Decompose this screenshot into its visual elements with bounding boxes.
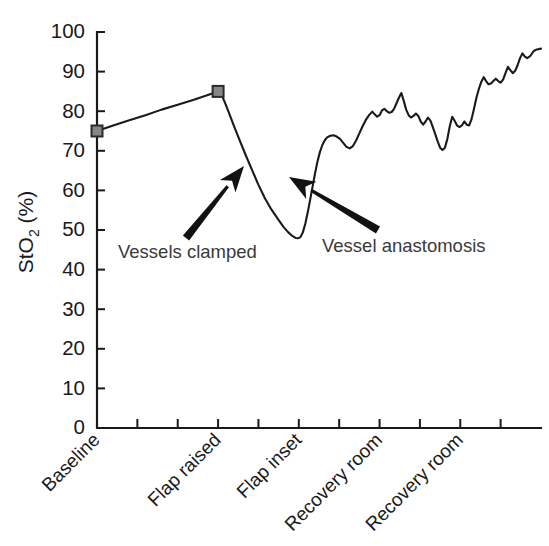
data-point-marker xyxy=(213,86,224,97)
annotation-arrow-shaft xyxy=(311,189,381,234)
annotation-vessels-clamped: Vessels clamped xyxy=(118,241,257,262)
y-tick-label: 10 xyxy=(62,376,85,399)
y-tick-label: 50 xyxy=(62,217,85,240)
y-tick-label: 30 xyxy=(62,297,85,320)
annotation-arrow-head xyxy=(220,166,244,193)
svg-text:StO2 (%): StO2 (%) xyxy=(14,191,42,273)
y-tick-label: 70 xyxy=(62,138,85,161)
x-category-label: Baseline xyxy=(37,429,103,495)
data-point-marker xyxy=(92,126,103,137)
sto2-data-curve xyxy=(97,49,541,239)
annotation-arrows xyxy=(183,166,380,241)
y-axis-title-base: StO xyxy=(14,237,37,273)
y-tick-label: 60 xyxy=(62,178,85,201)
x-axis-category-labels: BaselineFlap raisedFlap insetRecovery ro… xyxy=(37,428,467,534)
annotation-vessel-anastomosis: Vessel anastomosis xyxy=(322,235,486,256)
axis-lines xyxy=(97,32,541,428)
y-tick-label: 80 xyxy=(62,99,85,122)
annotation-labels: Vessels clamped Vessel anastomosis xyxy=(118,235,486,262)
y-axis-title-unit: (%) xyxy=(14,191,37,230)
x-category-label: Flap inset xyxy=(233,428,307,502)
y-tick-label: 100 xyxy=(51,19,85,42)
y-tick-label: 90 xyxy=(62,59,85,82)
y-axis-tick-marks xyxy=(97,32,105,428)
y-tick-label: 40 xyxy=(62,257,85,280)
chart-figure: StO2 (%) 0102030405060708090100 Vessels … xyxy=(0,0,549,546)
y-axis-title: StO2 (%) xyxy=(14,191,42,273)
y-axis-tick-labels: 0102030405060708090100 xyxy=(51,19,85,438)
x-category-label: Flap raised xyxy=(144,429,225,510)
y-axis-title-subscript: 2 xyxy=(26,229,42,237)
annotation-arrow-shaft xyxy=(183,185,229,240)
sto2-line-chart: StO2 (%) 0102030405060708090100 Vessels … xyxy=(0,0,549,546)
x-axis-tick-marks xyxy=(97,419,501,428)
y-tick-label: 20 xyxy=(62,336,85,359)
